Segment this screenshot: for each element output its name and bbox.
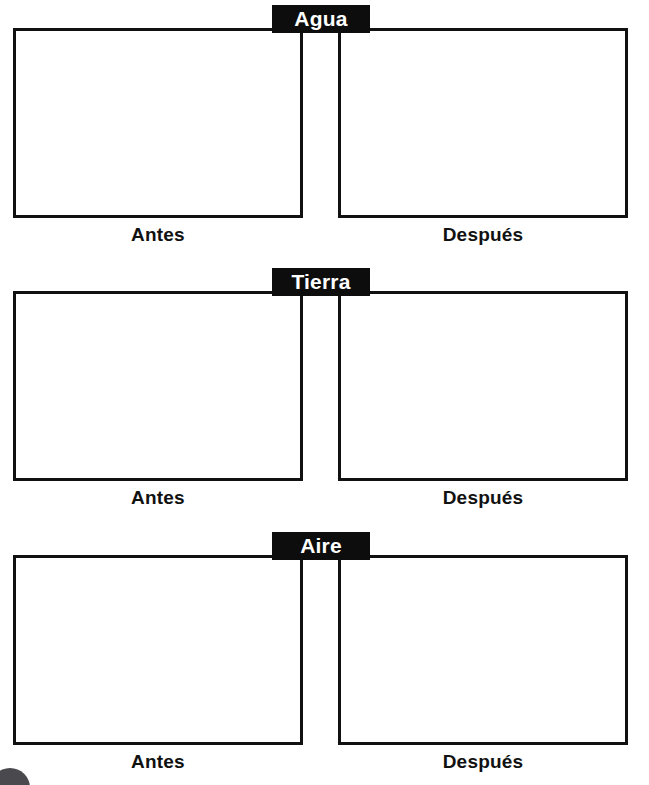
frame-caption-tierra-despues: Después [338, 485, 628, 511]
drawing-frame-agua-antes[interactable] [13, 28, 303, 218]
worksheet-page: Agua Antes Después Tierra Antes Después … [0, 0, 649, 785]
section-title-agua: Agua [272, 5, 370, 33]
drawing-frame-tierra-antes[interactable] [13, 291, 303, 481]
frame-row-aire [0, 555, 649, 745]
frame-caption-aire-antes: Antes [13, 749, 303, 775]
element-section-tierra: Tierra Antes Después [0, 263, 649, 511]
frame-caption-agua-despues: Después [338, 222, 628, 248]
drawing-frame-aire-antes[interactable] [13, 555, 303, 745]
drawing-frame-aire-despues[interactable] [338, 555, 628, 745]
section-title-aire: Aire [272, 532, 370, 560]
element-section-agua: Agua Antes Después [0, 0, 649, 248]
frame-row-agua [0, 28, 649, 218]
frame-caption-agua-antes: Antes [13, 222, 303, 248]
frame-caption-tierra-antes: Antes [13, 485, 303, 511]
frame-caption-aire-despues: Después [338, 749, 628, 775]
drawing-frame-agua-despues[interactable] [338, 28, 628, 218]
frame-row-tierra [0, 291, 649, 481]
element-section-aire: Aire Antes Después [0, 527, 649, 775]
drawing-frame-tierra-despues[interactable] [338, 291, 628, 481]
section-title-tierra: Tierra [272, 268, 370, 296]
